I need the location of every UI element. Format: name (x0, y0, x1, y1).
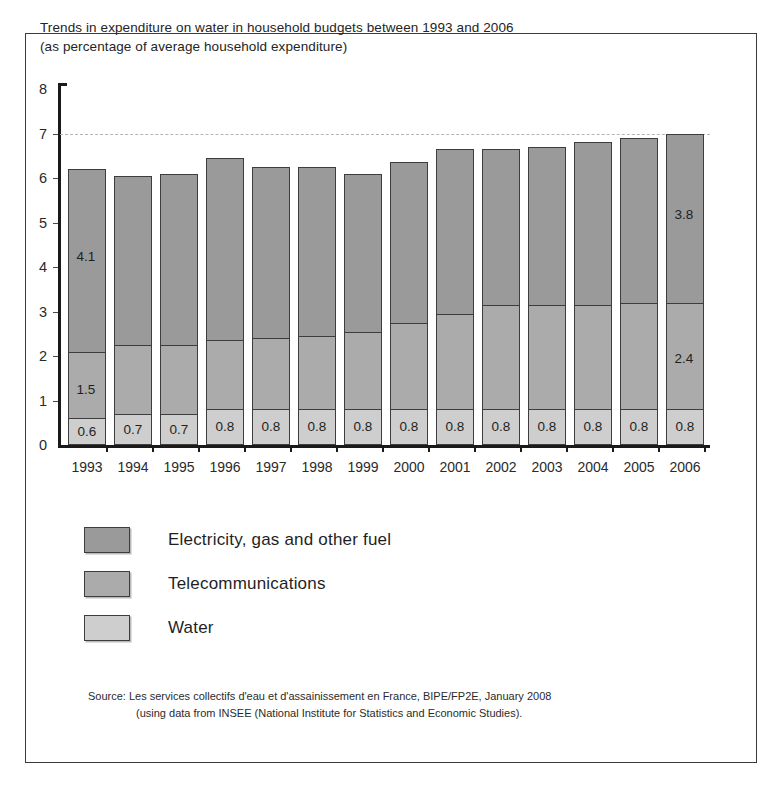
bar-segment-water[interactable]: 0.8 (666, 409, 705, 445)
bar-column[interactable]: 0.8 (298, 167, 337, 445)
bar-segment-telecommunications[interactable] (298, 336, 337, 409)
x-axis-tick-mark (336, 446, 338, 452)
bar-segment-telecommunications[interactable] (252, 338, 291, 409)
y-axis-tick-label: 0 (25, 437, 47, 453)
bar-segment-water[interactable]: 0.8 (574, 409, 613, 445)
bar-segment-electricity[interactable]: 4.1 (68, 169, 107, 351)
bar-segment-water[interactable]: 0.7 (160, 414, 199, 445)
bar-segment-telecommunications[interactable] (206, 340, 245, 409)
bar-column[interactable]: 0.7 (114, 176, 153, 445)
bar-segment-electricity[interactable] (206, 158, 245, 340)
y-axis-tick-mark (53, 134, 58, 135)
bar-segment-telecommunications[interactable] (390, 323, 429, 410)
bar-column[interactable]: 0.7 (160, 174, 199, 445)
bar-segment-telecommunications[interactable] (482, 305, 521, 410)
x-axis-tick-mark (106, 446, 108, 452)
bar-column[interactable]: 0.8 (436, 149, 475, 445)
x-axis-tick-mark (198, 446, 200, 452)
gridline (60, 134, 710, 135)
bar-segment-electricity[interactable] (298, 167, 337, 336)
y-axis-tick-label: 4 (25, 259, 47, 275)
bar-segment-water[interactable]: 0.8 (390, 409, 429, 445)
bar-segment-telecommunications[interactable] (114, 345, 153, 414)
x-axis-tick-mark (612, 446, 614, 452)
bar-segment-electricity[interactable]: 3.8 (666, 134, 705, 303)
bar-segment-electricity[interactable] (482, 149, 521, 305)
bar-segment-telecommunications[interactable] (344, 332, 383, 410)
bar-segment-value-label: 0.8 (446, 420, 465, 434)
chart-title-line-2: (as percentage of average household expe… (40, 37, 700, 56)
x-axis-tick-label: 2001 (439, 459, 470, 475)
bar-segment-water[interactable]: 0.8 (298, 409, 337, 445)
bar-segment-telecommunications[interactable] (436, 314, 475, 410)
x-axis-tick-label: 2004 (577, 459, 608, 475)
legend-swatch-telecom (84, 571, 130, 597)
legend-item-label: Water (168, 618, 214, 638)
y-axis-tick-label: 2 (25, 348, 47, 364)
bar-segment-electricity[interactable] (528, 147, 567, 305)
legend-item-label: Telecommunications (168, 574, 326, 594)
bar-segment-electricity[interactable] (390, 162, 429, 322)
bar-segment-water[interactable]: 0.8 (344, 409, 383, 445)
bar-segment-telecommunications[interactable] (528, 305, 567, 410)
bar-column[interactable]: 4.11.50.6 (68, 169, 107, 445)
bar-segment-value-label: 0.8 (630, 420, 649, 434)
bar-segment-value-label: 0.8 (216, 420, 235, 434)
bar-segment-water[interactable]: 0.8 (620, 409, 659, 445)
bar-segment-water[interactable]: 0.6 (68, 418, 107, 445)
bar-segment-water[interactable]: 0.8 (482, 409, 521, 445)
legend-item[interactable]: Telecommunications (84, 562, 391, 606)
x-axis-tick-label: 1996 (209, 459, 240, 475)
x-axis-tick-mark (658, 446, 660, 452)
x-axis-tick-label: 1999 (347, 459, 378, 475)
bar-segment-telecommunications[interactable] (160, 345, 199, 414)
bar-segment-electricity[interactable] (252, 167, 291, 338)
bar-segment-value-label: 0.8 (538, 420, 557, 434)
bar-segment-water[interactable]: 0.7 (114, 414, 153, 445)
bar-segment-value-label: 0.7 (124, 423, 143, 437)
y-axis-tick-mark (53, 223, 58, 224)
y-axis-tick-label: 3 (25, 304, 47, 320)
bar-column[interactable]: 0.8 (482, 149, 521, 445)
y-axis-tick-mark (53, 267, 58, 268)
bar-column[interactable]: 0.8 (252, 167, 291, 445)
bar-segment-electricity[interactable] (344, 174, 383, 332)
bar-segment-value-label: 0.8 (354, 420, 373, 434)
bar-column[interactable]: 0.8 (574, 142, 613, 445)
y-axis-tick-label: 7 (25, 126, 47, 142)
bar-column[interactable]: 3.82.40.8 (666, 134, 705, 445)
bar-segment-water[interactable]: 0.8 (528, 409, 567, 445)
x-axis-tick-label: 2006 (669, 459, 700, 475)
legend-item[interactable]: Electricity, gas and other fuel (84, 518, 391, 562)
bar-column[interactable]: 0.8 (206, 158, 245, 445)
bar-segment-value-label: 0.8 (400, 420, 419, 434)
x-axis-tick-mark (566, 446, 568, 452)
x-axis-tick-mark (704, 446, 706, 452)
y-axis-tick-mark (53, 178, 58, 179)
bar-column[interactable]: 0.8 (620, 138, 659, 445)
bar-segment-electricity[interactable] (574, 142, 613, 304)
x-axis-tick-label: 2000 (393, 459, 424, 475)
source-note-line-1: Source: Les services collectifs d'eau et… (88, 690, 551, 702)
bar-segment-value-label: 0.8 (492, 420, 511, 434)
bar-segment-water[interactable]: 0.8 (252, 409, 291, 445)
y-axis-tick-mark (53, 401, 58, 402)
bar-segment-value-label: 3.8 (675, 208, 694, 222)
bar-segment-telecommunications[interactable] (620, 303, 659, 410)
bar-segment-value-label: 0.6 (78, 425, 97, 439)
bar-column[interactable]: 0.8 (344, 174, 383, 445)
bar-column[interactable]: 0.8 (528, 147, 567, 445)
bar-segment-electricity[interactable] (436, 149, 475, 314)
bar-segment-telecommunications[interactable]: 2.4 (666, 303, 705, 410)
y-axis-tick-label: 8 (25, 81, 47, 97)
bar-segment-electricity[interactable] (114, 176, 153, 345)
x-axis-tick-label: 1995 (163, 459, 194, 475)
bar-segment-electricity[interactable] (620, 138, 659, 303)
bar-segment-water[interactable]: 0.8 (206, 409, 245, 445)
bar-segment-telecommunications[interactable] (574, 305, 613, 410)
bar-segment-telecommunications[interactable]: 1.5 (68, 352, 107, 419)
legend-item[interactable]: Water (84, 606, 391, 650)
bar-segment-water[interactable]: 0.8 (436, 409, 475, 445)
bar-column[interactable]: 0.8 (390, 162, 429, 445)
bar-segment-electricity[interactable] (160, 174, 199, 345)
